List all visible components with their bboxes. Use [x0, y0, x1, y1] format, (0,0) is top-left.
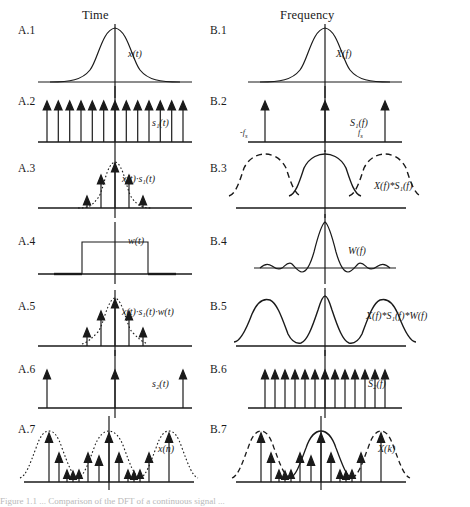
panel-b4-plot	[240, 216, 410, 284]
panel-b5-plot	[234, 286, 414, 356]
panel-id-b1: B.1	[210, 24, 227, 36]
panel-a4-plot	[30, 224, 200, 284]
panel-b6-plot	[240, 356, 410, 418]
panel-b3-plot	[234, 150, 414, 218]
panel-id-b7: B.7	[210, 423, 227, 435]
panel-id-b4: B.4	[210, 235, 227, 247]
panel-id-b5: B.5	[210, 300, 227, 312]
dft-duality-figure: Time Frequency A.1 x(t) B.1 X(f) A.2 s₁(…	[0, 0, 470, 507]
panel-id-b6: B.6	[210, 363, 227, 375]
panel-id-b2: B.2	[210, 95, 227, 107]
panel-a6-plot	[30, 356, 200, 418]
panel-a7-plot	[16, 420, 202, 490]
panel-id-b3: B.3	[210, 162, 227, 174]
panel-b2-plot	[240, 90, 410, 152]
figure-caption: Figure 1.1 ... Comparison of the DFT of …	[0, 496, 470, 506]
panel-b7-plot	[228, 420, 414, 490]
panel-a5-plot	[30, 288, 200, 356]
panel-a1-plot	[30, 20, 200, 90]
panel-b1-plot	[240, 20, 410, 90]
panel-a2-plot	[30, 90, 200, 152]
panel-a3-plot	[30, 152, 200, 218]
